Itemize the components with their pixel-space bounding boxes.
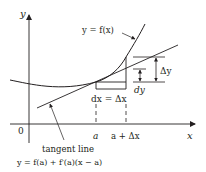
curve-label: y = f(x) xyxy=(81,25,114,35)
differential-diagram: y x 0 y = f(x) a a + Δx dx = Δx dy Δy ta… xyxy=(0,0,206,172)
delta-y-label: Δy xyxy=(160,66,172,76)
dy-label: dy xyxy=(134,85,146,95)
tangent-equation: y = f(a) + f′(a)(x − a) xyxy=(16,158,102,167)
function-curve xyxy=(10,24,145,87)
curve-label-leader xyxy=(122,33,135,39)
tangent-label-leader xyxy=(50,104,64,140)
y-axis-label: y xyxy=(19,8,26,19)
x-axis-label: x xyxy=(187,130,193,141)
x-tick-a-plus-dx: a + Δx xyxy=(111,131,140,141)
x-tick-a: a xyxy=(93,131,98,141)
dx-label: dx = Δx xyxy=(91,94,127,104)
origin-label: 0 xyxy=(18,126,24,136)
tangent-label: tangent line xyxy=(42,144,94,154)
